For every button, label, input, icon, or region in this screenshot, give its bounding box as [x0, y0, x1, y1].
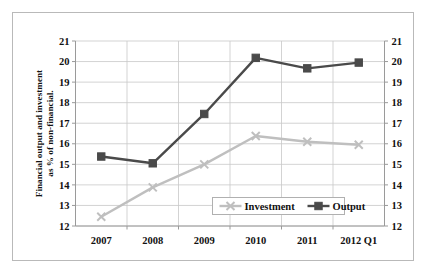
chart-figure: 21201918171615141312 2120191817161514131…	[0, 0, 427, 278]
data-point-marker	[315, 202, 322, 209]
x-tick-label: 2010	[245, 235, 266, 246]
y-tick-label-right: 18	[392, 97, 403, 108]
legend-item-output: Output	[308, 201, 366, 212]
y-tick-label-left: 19	[59, 77, 70, 88]
x-tick-label: 2011	[297, 235, 317, 246]
y-tick-label-left: 20	[59, 56, 70, 67]
data-point-marker	[149, 160, 156, 167]
x-axis-tick-labels: 200720082009201020112012 Q1	[91, 235, 378, 246]
x-tick-label: 2009	[194, 235, 215, 246]
y-axis-left-tick-labels: 21201918171615141312	[59, 36, 70, 232]
legend-label: Investment	[245, 201, 296, 212]
y-tick-label-right: 19	[392, 77, 403, 88]
y-tick-label-right: 15	[392, 159, 403, 170]
x-tick-label: 2007	[91, 235, 112, 246]
y-axis-right-tick-labels: 21201918171615141312	[392, 36, 403, 232]
chart-legend: InvestmentOutput	[213, 198, 366, 215]
data-point-marker	[97, 213, 105, 221]
y-tick-label-right: 16	[392, 138, 403, 149]
x-tick-label: 2012 Q1	[340, 235, 377, 246]
y-axis-title-line1: Financial output and investment	[34, 69, 44, 197]
y-tick-label-right: 12	[392, 221, 403, 232]
y-tick-label-left: 15	[59, 159, 70, 170]
data-point-marker	[355, 59, 362, 66]
y-tick-label-right: 20	[392, 56, 403, 67]
y-tick-label-right: 21	[392, 36, 403, 47]
data-point-marker	[252, 54, 259, 61]
legend-label: Output	[333, 201, 366, 212]
y-tick-label-left: 17	[59, 118, 70, 129]
x-tick-label: 2008	[142, 235, 163, 246]
data-point-marker	[201, 110, 208, 117]
y-tick-label-left: 13	[59, 200, 70, 211]
data-point-marker	[304, 65, 311, 72]
y-tick-label-left: 18	[59, 97, 70, 108]
y-axis-title-line2: as % of non-financial.	[45, 90, 55, 176]
y-tick-label-right: 13	[392, 200, 403, 211]
y-tick-label-right: 17	[392, 118, 403, 129]
data-point-marker	[98, 153, 105, 160]
y-axis-title: Financial output and investmentas % of n…	[34, 69, 55, 197]
y-tick-label-right: 14	[392, 180, 403, 191]
y-tick-label-left: 12	[59, 221, 70, 232]
line-chart: 21201918171615141312 2120191817161514131…	[0, 0, 427, 278]
y-tick-label-left: 21	[59, 36, 70, 47]
y-tick-label-left: 16	[59, 138, 70, 149]
y-tick-label-left: 14	[59, 180, 70, 191]
